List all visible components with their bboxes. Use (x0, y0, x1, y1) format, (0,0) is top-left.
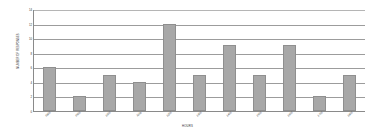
bar (253, 75, 266, 111)
y-axis-tick-label: 12 (29, 23, 32, 26)
y-axis-tick-label: 6 (30, 67, 32, 70)
bar (343, 75, 356, 111)
x-axis-tick-label: 1200 (166, 112, 172, 118)
x-axis-title: HOURS (0, 124, 375, 128)
bar-slot (245, 10, 275, 111)
bar-slot (305, 10, 335, 111)
plot-area (33, 10, 365, 112)
y-axis-tick-label: 10 (29, 38, 32, 41)
x-axis-tick-label: 1400 (227, 112, 233, 118)
x-axis-tick-label: 1600 (287, 112, 293, 118)
x-axis-tick-label: 1800 (348, 112, 354, 118)
bar (223, 45, 236, 111)
x-axis-tick-label: 1300 (197, 112, 203, 118)
x-axis-tick-label: 0900 (76, 112, 82, 118)
bar (193, 75, 206, 111)
y-axis-tick-label: 4 (30, 81, 32, 84)
bar-slot (124, 10, 154, 111)
y-axis-tick-label: 14 (29, 9, 32, 12)
bar-chart: NUMBER OF RESPONSES 02468101214 08000900… (0, 0, 375, 134)
bar (313, 96, 326, 111)
x-axis-tick-label: 1000 (106, 112, 112, 118)
bar (283, 45, 296, 111)
x-axis-tick-label: 1500 (257, 112, 263, 118)
x-axis-tick-label: 1100 (136, 112, 142, 118)
bar-slot (34, 10, 64, 111)
bar (103, 75, 116, 111)
x-axis-tick-label: 1700 (317, 112, 323, 118)
bar (73, 96, 86, 111)
y-axis-tick-labels: 02468101214 (20, 10, 32, 112)
bar-slot (64, 10, 94, 111)
bar (163, 24, 176, 111)
y-axis-tick-label: 8 (30, 52, 32, 55)
y-axis-tick-label: 2 (30, 96, 32, 99)
bar-series (34, 10, 365, 111)
bar-slot (154, 10, 184, 111)
x-axis-tick-label: 0800 (46, 112, 52, 118)
bar-slot (94, 10, 124, 111)
bar-slot (335, 10, 365, 111)
bar-slot (215, 10, 245, 111)
bar (133, 82, 146, 111)
y-axis-tick-label: 0 (30, 111, 32, 114)
bar-slot (275, 10, 305, 111)
bar (43, 67, 56, 111)
bar-slot (184, 10, 214, 111)
